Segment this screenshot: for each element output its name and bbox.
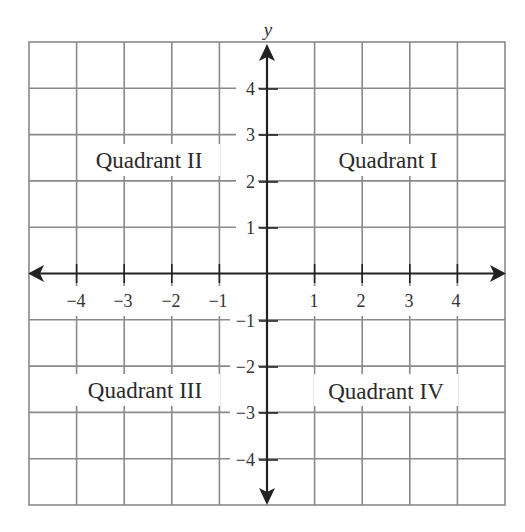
coordinate-plane: y −4 −3 −2 −1 1 2 3 4 4 3 2 1 −1 −2 −3 −…	[0, 0, 525, 532]
y-tick-label: −1	[236, 311, 255, 331]
y-tick-label: 2	[246, 172, 255, 192]
quadrant-3-label: Quadrant III	[88, 378, 202, 403]
y-axis-label: y	[262, 19, 273, 40]
quadrant-1-label: Quadrant I	[339, 148, 438, 173]
x-tick-label: 4	[452, 291, 461, 311]
x-tick-label: 2	[357, 291, 366, 311]
y-tick-label: 4	[246, 79, 255, 99]
y-tick-label: −2	[236, 357, 255, 377]
quadrant-2-label: Quadrant II	[96, 148, 203, 173]
x-tick-label: −4	[66, 291, 85, 311]
x-tick-label: 3	[405, 291, 414, 311]
x-tick-label: −1	[208, 291, 227, 311]
axes	[28, 44, 506, 505]
quadrant-4-label: Quadrant IV	[328, 379, 444, 404]
y-tick-label: −3	[236, 403, 255, 423]
x-tick-label: −2	[161, 291, 180, 311]
y-tick-label: 3	[246, 125, 255, 145]
x-tick-label: 1	[310, 291, 319, 311]
y-tick-label: 1	[246, 218, 255, 238]
x-tick-label: −3	[113, 291, 132, 311]
y-tick-label: −4	[236, 450, 255, 470]
